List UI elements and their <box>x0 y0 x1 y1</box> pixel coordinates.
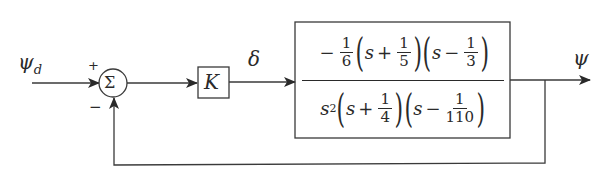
sigma-symbol: Σ <box>104 73 115 92</box>
tf-numerator: − 16 (s+15) (s−13) <box>300 26 506 78</box>
gain-label: K <box>204 70 219 94</box>
delta-signal-label: δ <box>248 47 260 71</box>
block-diagram-canvas <box>0 0 596 181</box>
tf-gain-fraction: 16 <box>340 35 354 70</box>
tf-leading-sign: − <box>320 42 335 63</box>
output-signal-label: ψ <box>573 46 589 70</box>
tf-denominator: s2 (s+14) (s−1110) <box>300 82 506 134</box>
tf-fraction-bar <box>302 80 504 81</box>
plus-sign: + <box>88 58 99 73</box>
transfer-function: − 16 (s+15) (s−13) s2 (s+14) (s−1110) <box>300 26 506 134</box>
input-signal-label: ψd <box>18 50 42 77</box>
minus-sign: − <box>89 98 102 116</box>
